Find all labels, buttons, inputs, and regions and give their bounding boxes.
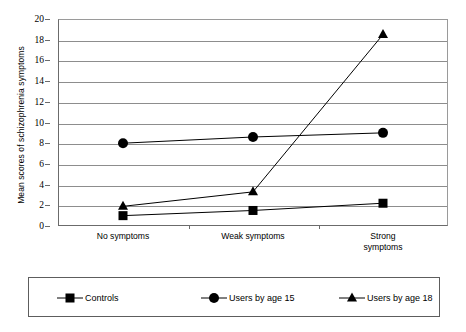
legend-marker — [201, 291, 227, 305]
square-marker-icon — [379, 199, 388, 208]
y-tick-label: 20 — [18, 14, 44, 24]
y-tick-label: 4 — [18, 180, 44, 190]
circle-marker-icon — [118, 138, 128, 148]
triangle-marker-icon — [378, 29, 388, 38]
circle-marker-icon — [378, 128, 388, 138]
y-tick-label: 6 — [18, 159, 44, 169]
y-tick-mark — [45, 164, 50, 165]
legend-entry[interactable]: Users by age 18 — [339, 290, 433, 306]
legend-marker — [339, 291, 365, 305]
square-marker-icon — [249, 206, 258, 215]
schizophrenia-symptoms-line-chart: Mean scores of schizophrenia symptoms 02… — [0, 0, 466, 332]
legend-marker — [57, 291, 83, 305]
y-tick-mark — [45, 226, 50, 227]
legend-entry[interactable]: Controls — [57, 290, 119, 306]
series-line — [123, 35, 383, 207]
legend-label: Users by age 18 — [367, 293, 433, 303]
y-tick-mark — [45, 143, 50, 144]
y-tick-mark — [45, 19, 50, 20]
y-tick-mark — [45, 40, 50, 41]
y-tick-mark — [45, 123, 50, 124]
y-tick-mark — [45, 81, 50, 82]
y-tick-label: 14 — [18, 76, 44, 86]
y-tick-label: 2 — [18, 200, 44, 210]
y-axis-ticks: 02468101214161820 — [0, 0, 58, 250]
y-tick-label: 8 — [18, 138, 44, 148]
chart-legend: ControlsUsers by age 15Users by age 18 — [28, 277, 440, 317]
triangle-marker-icon — [118, 201, 128, 210]
y-tick-label: 10 — [18, 118, 44, 128]
legend-label: Controls — [85, 293, 119, 303]
y-tick-mark — [45, 102, 50, 103]
legend-label: Users by age 15 — [229, 293, 295, 303]
y-tick-label: 16 — [18, 55, 44, 65]
x-tick-label-line: symptoms — [318, 242, 448, 253]
y-tick-label: 18 — [18, 35, 44, 45]
y-tick-mark — [45, 60, 50, 61]
y-tick-label: 12 — [18, 97, 44, 107]
x-tick-label: Weak symptoms — [188, 231, 318, 242]
legend-entry[interactable]: Users by age 15 — [201, 290, 295, 306]
x-tick-label-line: No symptoms — [58, 231, 188, 242]
series-users-by-age-15 — [118, 128, 388, 148]
y-tick-mark — [45, 185, 50, 186]
square-marker-icon — [66, 294, 75, 303]
circle-marker-icon — [248, 132, 258, 142]
y-tick-mark — [45, 205, 50, 206]
x-tick-label-line: Weak symptoms — [188, 231, 318, 242]
circle-marker-icon — [209, 293, 219, 303]
series-users-by-age-18 — [118, 29, 388, 210]
square-marker-icon — [119, 211, 128, 220]
x-tick-label: No symptoms — [58, 231, 188, 242]
x-tick-label-line: Strong — [318, 231, 448, 242]
series-layer — [58, 19, 448, 226]
y-tick-label: 0 — [18, 221, 44, 231]
x-tick-label: Strongsymptoms — [318, 231, 448, 252]
triangle-marker-icon — [347, 292, 357, 301]
